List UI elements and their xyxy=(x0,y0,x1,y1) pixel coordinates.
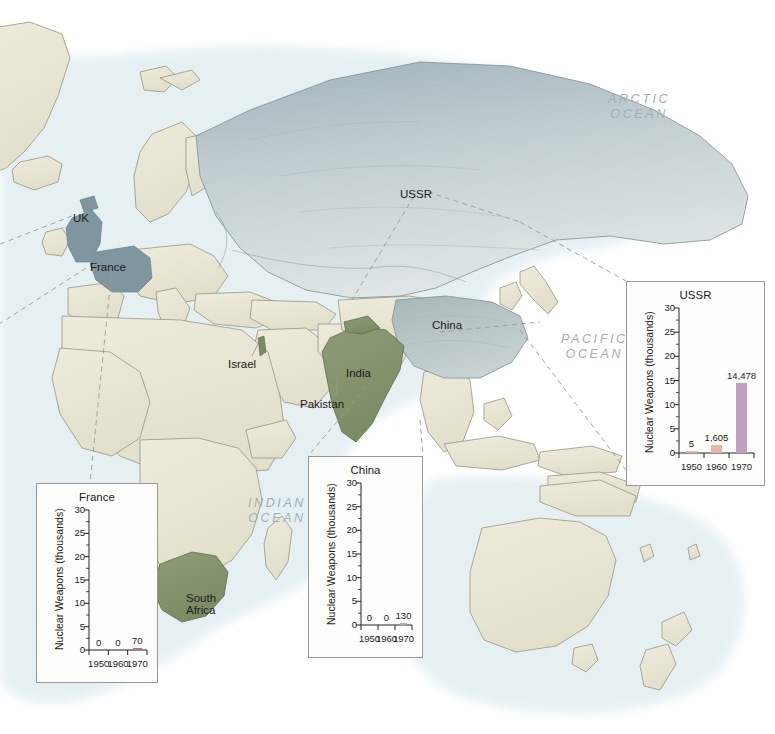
y-tick-label: 15 xyxy=(329,548,357,559)
bar-1970 xyxy=(133,648,142,651)
bar-value-1960: 1,605 xyxy=(700,432,733,443)
x-tick-label-1970: 1970 xyxy=(391,633,416,644)
y-tick-label: 20 xyxy=(57,551,85,562)
y-tick-label: 10 xyxy=(329,572,357,583)
bar-value-1970: 14,478 xyxy=(725,370,758,381)
bar-1960 xyxy=(711,445,723,453)
y-tick-label: 5 xyxy=(57,621,85,632)
y-tick-label: 5 xyxy=(329,595,357,606)
y-tick-label: 0 xyxy=(57,644,85,655)
china-chart-panel: ChinaNuclear Weapons (thousands)05101520… xyxy=(308,456,423,658)
france-chart-panel: FranceNuclear Weapons (thousands)0510152… xyxy=(36,483,158,683)
x-tick-label-1970: 1970 xyxy=(725,461,758,472)
y-tick-label: 25 xyxy=(329,501,357,512)
chart-axes xyxy=(37,484,159,684)
bar-1950 xyxy=(686,451,698,454)
y-tick-label: 5 xyxy=(647,423,675,434)
y-tick-label: 0 xyxy=(647,447,675,458)
bar-value-1970: 70 xyxy=(124,635,151,646)
y-tick-label: 10 xyxy=(647,399,675,410)
y-tick-label: 10 xyxy=(57,597,85,608)
chart-axes xyxy=(309,457,424,659)
y-tick-label: 30 xyxy=(647,302,675,313)
y-tick-label: 30 xyxy=(57,504,85,515)
y-tick-label: 25 xyxy=(57,527,85,538)
bar-value-1970: 130 xyxy=(391,610,416,621)
y-tick-label: 15 xyxy=(57,574,85,585)
bar-1970 xyxy=(400,623,408,626)
map-figure: ARCTIC OCEAN PACIFIC OCEAN INDIAN OCEAN … xyxy=(0,0,775,734)
y-tick-label: 20 xyxy=(647,350,675,361)
y-tick-label: 20 xyxy=(329,524,357,535)
y-tick-label: 25 xyxy=(647,326,675,337)
y-tick-label: 0 xyxy=(329,619,357,630)
y-tick-label: 30 xyxy=(329,477,357,488)
ussr-chart-panel: USSRNuclear Weapons (thousands)051015202… xyxy=(626,281,765,486)
y-tick-label: 15 xyxy=(647,375,675,386)
bar-1970 xyxy=(736,383,748,453)
x-tick-label-1970: 1970 xyxy=(124,658,151,669)
